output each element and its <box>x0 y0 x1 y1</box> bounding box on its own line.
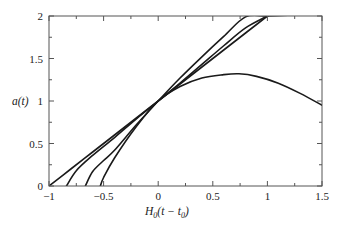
plot-frame <box>49 16 322 186</box>
y-tick-label: 1 <box>38 95 44 107</box>
x-tick-label: −1 <box>43 190 55 202</box>
x-tick-label: −0.5 <box>94 190 114 202</box>
x-tick-labels: −1−0.500.511.5 <box>43 190 329 202</box>
x-tick-label: 1 <box>265 190 271 202</box>
curves-group <box>49 0 322 186</box>
y-tick-label: 1.5 <box>29 53 43 65</box>
curve-2 <box>66 4 289 186</box>
scale-factor-chart: −1−0.500.511.5 00.511.52 a(t) H0(t − t0) <box>0 0 342 225</box>
x-tick-label: 0 <box>155 190 161 202</box>
y-tick-label: 0.5 <box>29 138 43 150</box>
y-tick-labels: 00.511.52 <box>29 10 43 192</box>
ticks-group <box>49 16 322 186</box>
y-tick-label: 2 <box>38 10 44 22</box>
y-tick-label: 0 <box>38 180 44 192</box>
y-axis-label: a(t) <box>12 95 29 108</box>
x-tick-label: 1.5 <box>315 190 329 202</box>
x-axis-label: H0(t − t0) <box>144 205 189 220</box>
curve-3 <box>85 15 289 186</box>
x-tick-label: 0.5 <box>206 190 220 202</box>
curve-4 <box>100 74 322 186</box>
